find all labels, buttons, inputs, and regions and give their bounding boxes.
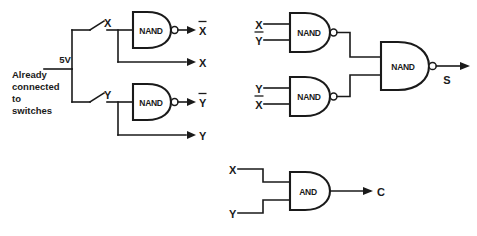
sum-input-y-label: Y bbox=[255, 83, 263, 95]
gate-nand-y-inverter[interactable]: NAND bbox=[133, 84, 178, 120]
wire-carry-in-y bbox=[238, 200, 290, 213]
nand-x-ybar-label: NAND bbox=[297, 28, 321, 38]
switch-y-label: Y bbox=[104, 89, 112, 101]
sum-input-ybar-label: Y bbox=[255, 35, 263, 47]
switch-x-label: X bbox=[104, 17, 112, 29]
gate-nand-sum[interactable]: NAND bbox=[381, 42, 436, 90]
gate-and-carry[interactable]: AND bbox=[290, 172, 330, 210]
output-x: X bbox=[187, 57, 207, 69]
supply-note-line-3: to bbox=[12, 93, 21, 104]
carry-input-x-label: X bbox=[229, 164, 237, 176]
sum-gate-1-inputs bbox=[264, 24, 290, 40]
output-sum-label: S bbox=[443, 74, 450, 86]
wire-upper-to-sum bbox=[337, 33, 381, 58]
output-x-label: X bbox=[199, 57, 207, 69]
nand-x-ybar-bubble bbox=[330, 29, 337, 36]
nand-y-inverter-label: NAND bbox=[139, 98, 163, 108]
arrowhead-ybar bbox=[187, 98, 196, 106]
and-carry-label: AND bbox=[299, 187, 317, 197]
supply-note-line-1: Already bbox=[12, 69, 48, 80]
output-ybar-label: Y bbox=[199, 97, 207, 109]
sum-gate-2-inputs bbox=[264, 88, 290, 104]
nand-sum-bubble bbox=[429, 62, 436, 69]
wire-lower-to-sum bbox=[337, 75, 381, 97]
carry-input-x-wiring bbox=[238, 169, 290, 182]
arrowhead-carry bbox=[363, 187, 373, 195]
gate-nand-y-xbar[interactable]: NAND bbox=[290, 77, 337, 116]
arrowhead-x bbox=[187, 58, 196, 66]
output-ybar: Y bbox=[187, 94, 207, 109]
arrowhead-y bbox=[187, 131, 196, 139]
arrowhead-xbar bbox=[187, 26, 196, 34]
gate-nand-x-inverter[interactable]: NAND bbox=[133, 12, 178, 48]
supply-note-line-4: switches bbox=[12, 105, 52, 116]
carry-input-y-wiring bbox=[238, 200, 290, 213]
wire-carry-in-x bbox=[238, 169, 290, 182]
nand-y-xbar-bubble bbox=[330, 93, 337, 100]
output-carry: C bbox=[330, 186, 385, 198]
switch-y[interactable] bbox=[90, 93, 133, 102]
output-xbar-label: X bbox=[199, 25, 207, 37]
sum-input-x-label: X bbox=[255, 19, 263, 31]
nand-sum-label: NAND bbox=[391, 62, 415, 72]
sum-input-xbar-label: X bbox=[255, 99, 263, 111]
nand-y-xbar-label: NAND bbox=[297, 92, 321, 102]
nand-x-inverter-bubble bbox=[171, 27, 178, 34]
switch-x[interactable] bbox=[90, 21, 133, 30]
supply-note-line-2: connected bbox=[12, 81, 60, 92]
output-y-label: Y bbox=[199, 130, 207, 142]
output-carry-label: C bbox=[377, 186, 385, 198]
switch-y-blade[interactable] bbox=[90, 93, 104, 102]
sum-input-xbar-group: X bbox=[255, 96, 264, 111]
output-xbar: X bbox=[187, 22, 207, 37]
output-sum: S bbox=[437, 62, 471, 86]
switch-x-blade[interactable] bbox=[90, 21, 104, 30]
output-y: Y bbox=[187, 130, 207, 142]
wiring-sum-interconnect-lower bbox=[337, 75, 381, 97]
arrowhead-sum bbox=[460, 62, 470, 70]
nand-y-inverter-bubble bbox=[171, 99, 178, 106]
supply-note: Already connected to switches bbox=[12, 69, 60, 116]
carry-input-y-label: Y bbox=[229, 208, 237, 220]
gate-nand-x-ybar[interactable]: NAND bbox=[290, 13, 337, 52]
sum-input-ybar-group: Y bbox=[255, 32, 264, 47]
nand-x-inverter-label: NAND bbox=[139, 26, 163, 36]
supply-voltage-label: 5V bbox=[59, 54, 71, 65]
wiring-sum-interconnect-upper bbox=[337, 33, 381, 58]
logic-circuit-diagram: 5V Already connected to switches X Y NAN… bbox=[0, 0, 477, 236]
